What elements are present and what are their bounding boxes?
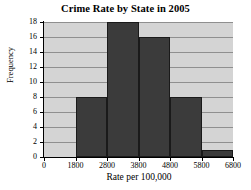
bar <box>170 97 202 157</box>
y-axis-line <box>43 21 44 158</box>
y-tick-label: 14 <box>29 48 37 56</box>
x-tick-label: 6800 <box>225 161 241 170</box>
y-tick-label: 10 <box>29 78 37 86</box>
y-tick-mark <box>40 127 43 128</box>
y-tick-label: 4 <box>33 123 37 131</box>
histogram-figure: Crime Rate by State in 2005 Frequency Ra… <box>0 0 251 190</box>
y-tick-mark <box>40 67 43 68</box>
y-tick-mark <box>40 142 43 143</box>
y-tick-mark <box>40 22 43 23</box>
y-tick-mark <box>40 82 43 83</box>
y-axis-label: Frequency <box>5 25 15 105</box>
x-tick-label: 3800 <box>131 161 147 170</box>
y-tick-mark <box>40 112 43 113</box>
x-tick-label: 4800 <box>162 161 178 170</box>
y-tick-label: 16 <box>29 33 37 41</box>
y-tick-label: 12 <box>29 63 37 71</box>
x-axis-label: Rate per 100,000 <box>44 172 234 183</box>
bar-series <box>44 22 233 157</box>
bar <box>139 37 171 157</box>
y-tick-mark <box>40 97 43 98</box>
x-tick-label: 1800 <box>68 161 84 170</box>
y-tick-label: 6 <box>33 108 37 116</box>
y-tick-label: 2 <box>33 138 37 146</box>
y-tick-label: 18 <box>29 18 37 26</box>
y-tick-mark <box>40 52 43 53</box>
plot-area <box>44 22 233 157</box>
x-tick-label: 2800 <box>99 161 115 170</box>
bar <box>202 150 234 158</box>
y-tick-mark <box>40 157 43 158</box>
bar <box>76 97 108 157</box>
x-tick-label: 5800 <box>194 161 210 170</box>
bar <box>107 22 139 157</box>
chart-title: Crime Rate by State in 2005 <box>0 3 251 15</box>
y-tick-label: 8 <box>33 93 37 101</box>
y-tick-label: 0 <box>33 153 37 161</box>
y-tick-mark <box>40 37 43 38</box>
x-tick-label: 0 <box>42 161 46 170</box>
